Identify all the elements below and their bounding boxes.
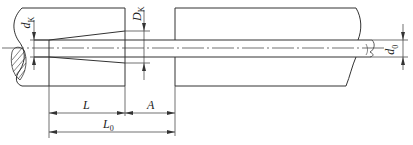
- label-L0-sub: 0: [110, 124, 114, 133]
- right-workpiece: [175, 8, 361, 86]
- label-d0: d0: [384, 45, 399, 55]
- label-dk-sub: K: [27, 17, 36, 23]
- label-d0-main: d: [383, 49, 397, 55]
- technical-drawing: [0, 0, 413, 145]
- label-L: L: [83, 99, 90, 111]
- label-dk-main: d: [19, 23, 33, 29]
- label-Dk-sub: K: [137, 6, 146, 12]
- label-L0-main: L: [103, 117, 110, 131]
- label-Dk: DK: [131, 6, 146, 20]
- label-Dk-main: D: [130, 12, 144, 21]
- rod: [34, 40, 374, 57]
- label-A-main: A: [147, 98, 154, 112]
- label-L0: L0: [103, 118, 114, 133]
- section-hatching: [12, 48, 26, 79]
- label-dk: dK: [20, 17, 35, 29]
- label-A: A: [147, 99, 154, 111]
- label-L-main: L: [83, 98, 90, 112]
- label-d0-sub: 0: [391, 45, 400, 49]
